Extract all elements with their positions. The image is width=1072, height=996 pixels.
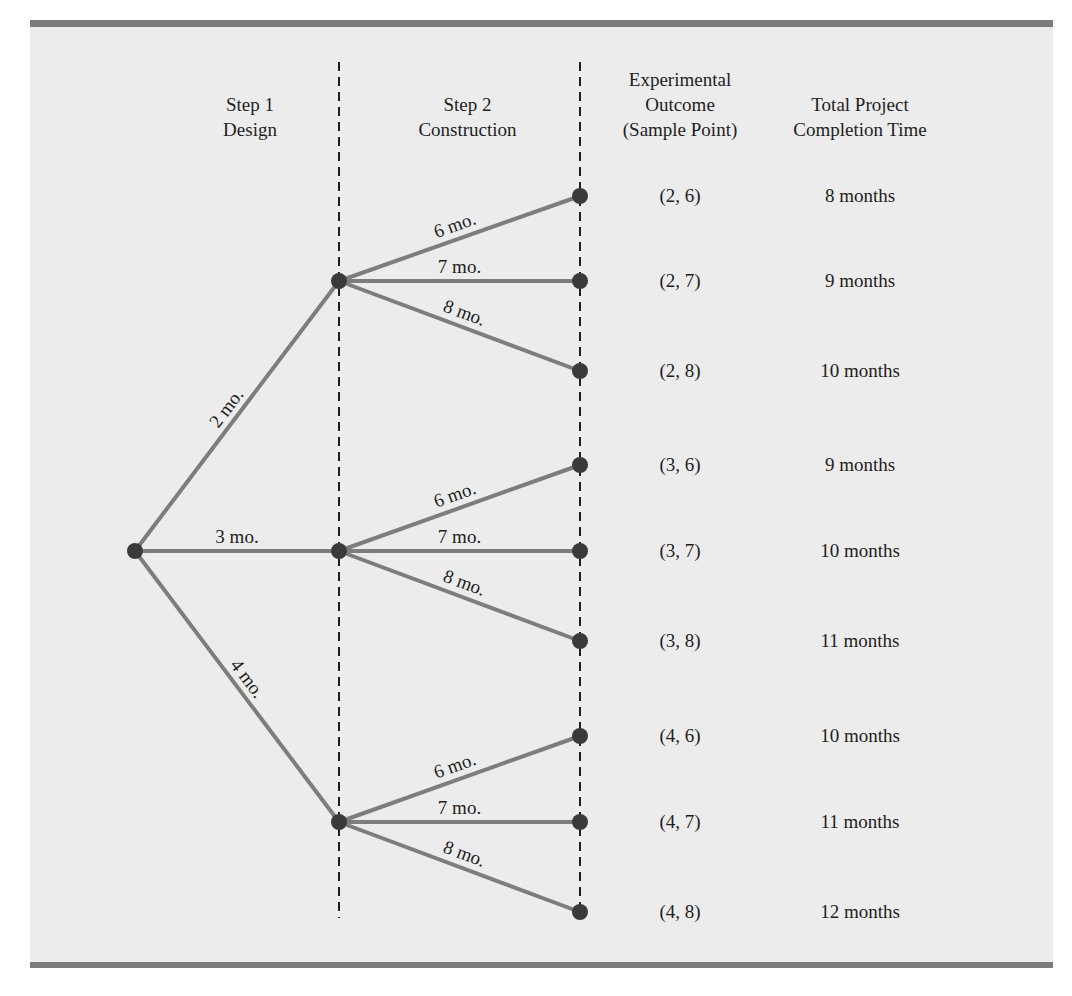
outcome-point: (2, 6) xyxy=(650,185,710,207)
outcome-node xyxy=(572,904,588,920)
outcome-point: (4, 6) xyxy=(650,725,710,747)
completion-time: 11 months xyxy=(790,630,930,652)
outcome-point: (3, 7) xyxy=(650,540,710,562)
step1-branch xyxy=(135,551,339,822)
outcome-point: (4, 7) xyxy=(650,811,710,833)
outcome-node xyxy=(572,814,588,830)
root-node xyxy=(127,543,143,559)
step2-branch-label: 8 mo. xyxy=(441,565,489,600)
completion-time: 9 months xyxy=(790,270,930,292)
tree-diagram: 2 mo.6 mo.7 mo.8 mo.3 mo.6 mo.7 mo.8 mo.… xyxy=(0,0,1072,996)
completion-time: 10 months xyxy=(790,360,930,382)
step2-branch-label: 6 mo. xyxy=(431,748,479,782)
branch-labels: 2 mo.6 mo.7 mo.8 mo.3 mo.6 mo.7 mo.8 mo.… xyxy=(205,208,489,871)
outcome-point: (4, 8) xyxy=(650,901,710,923)
outcome-point: (3, 8) xyxy=(650,630,710,652)
step1-node xyxy=(331,543,347,559)
outcome-point: (3, 6) xyxy=(650,454,710,476)
step1-node xyxy=(331,814,347,830)
step2-branch-label: 7 mo. xyxy=(438,256,481,277)
step2-branch-label: 6 mo. xyxy=(431,208,479,242)
outcome-node xyxy=(572,457,588,473)
step2-branch-label: 7 mo. xyxy=(438,526,481,547)
step2-branch-label: 8 mo. xyxy=(441,295,489,330)
branches xyxy=(135,196,580,912)
step1-node xyxy=(331,273,347,289)
outcome-point: (2, 7) xyxy=(650,270,710,292)
outcome-point: (2, 8) xyxy=(650,360,710,382)
step2-branch-label: 7 mo. xyxy=(438,797,481,818)
outcome-node xyxy=(572,728,588,744)
step2-branch xyxy=(339,281,580,371)
outcome-node xyxy=(572,633,588,649)
completion-time: 10 months xyxy=(790,540,930,562)
outcome-node xyxy=(572,273,588,289)
step1-branch xyxy=(135,281,339,551)
completion-time: 12 months xyxy=(790,901,930,923)
step2-branch xyxy=(339,551,580,641)
step2-branch-label: 6 mo. xyxy=(431,477,479,511)
step2-branch xyxy=(339,822,580,912)
outcome-node xyxy=(572,543,588,559)
outcome-node xyxy=(572,363,588,379)
outcome-node xyxy=(572,188,588,204)
step1-branch-label: 3 mo. xyxy=(215,526,258,547)
completion-time: 9 months xyxy=(790,454,930,476)
completion-time: 11 months xyxy=(790,811,930,833)
step2-branch-label: 8 mo. xyxy=(441,836,489,871)
nodes xyxy=(127,188,588,920)
completion-time: 10 months xyxy=(790,725,930,747)
completion-time: 8 months xyxy=(790,185,930,207)
